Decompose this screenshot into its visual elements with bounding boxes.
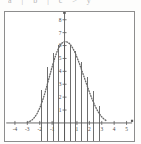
x-tick-label: 1 [76,126,79,132]
x-tick-label: 2 [88,126,91,132]
cut-off-header-text: a | b | c > y [0,0,141,9]
y-axis-arrow-tip [63,12,66,14]
x-tick-label: -4 [13,126,18,132]
y-tick-label: 8 [59,17,62,23]
header-text: a | b | c > y [8,0,95,5]
x-axis-arrow-tip [131,120,133,122]
bell-curve-dotted [27,42,106,123]
plot-area: -4-3-2-11234512345678 [5,12,134,141]
y-tick-label: 7 [59,30,62,36]
x-tick-label: 4 [113,126,116,132]
graph-canvas: -4-3-2-11234512345678 [5,12,134,141]
plot-frame: -4-3-2-11234512345678 [4,11,135,142]
x-tick-label: 5 [125,126,128,132]
screenshot-root: a | b | c > y -4-3-2-11234512345678 [0,0,141,144]
x-tick-label: -3 [25,126,30,132]
x-tick-label: 3 [100,126,103,132]
